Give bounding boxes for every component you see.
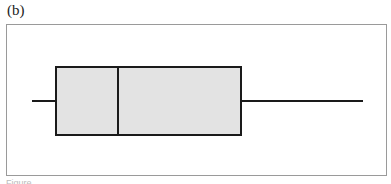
figure-caption: Figure ...: [6, 178, 42, 184]
boxplot: [0, 0, 391, 184]
box-iqr: [56, 67, 241, 135]
